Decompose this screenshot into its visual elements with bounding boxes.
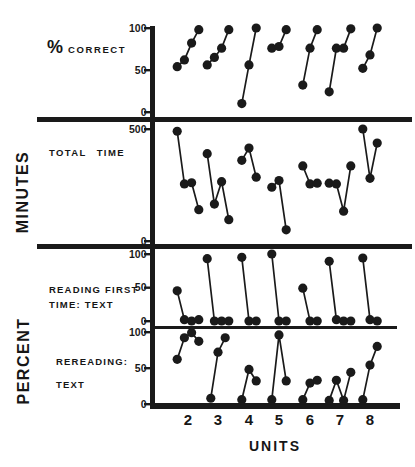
panel-divider-2 [37, 244, 412, 249]
y-tick-label: 100 [129, 326, 147, 338]
data-point [267, 395, 276, 404]
data-line-panel1-unit6 [303, 30, 317, 85]
y-tick-label: 500 [129, 123, 147, 135]
data-point [274, 42, 283, 51]
data-point [298, 395, 307, 404]
data-point [224, 25, 233, 34]
data-point [313, 316, 322, 325]
data-line-panel4-unit5 [272, 335, 286, 400]
y-tick-label: 0 [141, 235, 147, 247]
data-point [298, 161, 307, 170]
data-point [346, 368, 355, 377]
data-point [313, 179, 322, 188]
data-point [298, 284, 307, 293]
data-point [187, 178, 196, 187]
panel4-title-line1: REREADING: [56, 350, 128, 373]
data-point [305, 44, 314, 53]
data-point [210, 199, 219, 208]
panel2-title: TOTAL TIME [49, 147, 125, 158]
data-point [194, 315, 203, 324]
x-tick-label-unit-7: 7 [328, 411, 352, 428]
percent-sign: % [47, 38, 63, 56]
data-point [244, 60, 253, 69]
data-point [252, 376, 261, 385]
data-point [237, 253, 246, 262]
data-point [282, 376, 291, 385]
y-axis-label-percent: PERCENT [15, 318, 33, 405]
data-point [244, 365, 253, 374]
x-tick-label-unit-2: 2 [176, 411, 200, 428]
data-point [194, 337, 203, 346]
data-point [180, 55, 189, 64]
data-point [346, 161, 355, 170]
data-line-panel3-unit4 [242, 257, 256, 321]
data-point [274, 330, 283, 339]
data-point [187, 39, 196, 48]
data-point [339, 44, 348, 53]
data-point [373, 316, 382, 325]
data-point [173, 286, 182, 295]
data-point [173, 62, 182, 71]
data-line-panel1-unit7 [329, 29, 351, 92]
data-line-panel1-unit8 [363, 28, 377, 68]
data-point [237, 99, 246, 108]
data-point [252, 316, 261, 325]
y-tick-label: 100 [129, 248, 147, 260]
data-point [325, 396, 334, 405]
data-point [210, 53, 219, 62]
panel3-title-line1: READING FIRST [49, 282, 139, 297]
data-point [194, 205, 203, 214]
data-line-panel4-unit8 [363, 346, 377, 399]
data-point [365, 361, 374, 370]
panel4-title-line2: TEXT [56, 373, 128, 396]
data-point [298, 81, 307, 90]
data-point [346, 24, 355, 33]
data-point [224, 215, 233, 224]
x-tick-label-unit-3: 3 [206, 411, 230, 428]
y-tick-label: 50 [135, 64, 147, 76]
data-point [252, 173, 261, 182]
x-tick-label-unit-5: 5 [267, 411, 291, 428]
panel4-title: REREADING: TEXT [56, 350, 128, 396]
data-point [221, 333, 230, 342]
y-axis [150, 26, 155, 409]
data-point [203, 149, 212, 158]
panel1-title: % CORRECT [47, 38, 126, 56]
y-tick-label: 0 [141, 106, 147, 118]
data-line-panel3-unit5 [272, 254, 286, 321]
data-line-panel2-unit3 [207, 154, 229, 220]
data-point [224, 316, 233, 325]
data-point [358, 64, 367, 73]
data-line-panel3-unit8 [363, 258, 377, 321]
data-point [217, 44, 226, 53]
data-point [373, 23, 382, 32]
data-point [373, 342, 382, 351]
data-point [213, 348, 222, 357]
data-point [206, 394, 215, 403]
data-point [346, 316, 355, 325]
data-line-panel4-unit3 [211, 338, 225, 398]
data-point [373, 139, 382, 148]
x-axis-title: UNITS [150, 438, 400, 454]
data-line-panel4-unit7 [329, 372, 351, 400]
data-line-panel2-unit2 [177, 131, 199, 209]
data-point [282, 316, 291, 325]
data-point [313, 25, 322, 34]
data-point [358, 124, 367, 133]
data-point [173, 355, 182, 364]
data-line-panel3-unit3 [207, 259, 229, 321]
data-point [194, 25, 203, 34]
data-line-panel2-unit7 [329, 166, 351, 211]
data-point [217, 177, 226, 186]
data-line-panel2-unit8 [363, 129, 377, 178]
panel-divider-1 [37, 117, 412, 122]
data-line-panel3-unit6 [303, 288, 317, 321]
data-point [339, 207, 348, 216]
data-point [365, 174, 374, 183]
chart-canvas: 1005005000100500100500 [0, 0, 415, 467]
data-point [237, 156, 246, 165]
data-point [237, 395, 246, 404]
data-point [332, 179, 341, 188]
data-point [267, 249, 276, 258]
data-point [332, 376, 341, 385]
